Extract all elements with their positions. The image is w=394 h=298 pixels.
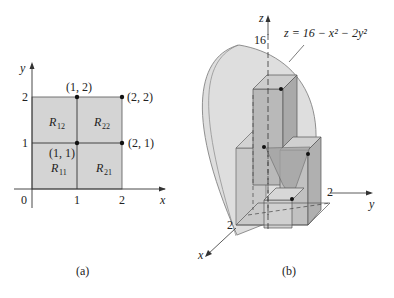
x-axis-arrow-icon xyxy=(159,187,166,192)
y-axis-b-arrow-icon xyxy=(366,191,373,196)
point-label-1-2: (1, 2) xyxy=(66,80,92,94)
z-tick-16: 16 xyxy=(254,33,266,47)
point-label-1-1: (1, 1) xyxy=(49,146,75,160)
y-tick-2: 2 xyxy=(22,90,28,104)
point-1-2 xyxy=(75,95,79,99)
x-tick-2: 2 xyxy=(119,193,125,207)
svg-text:22: 22 xyxy=(102,122,110,131)
origin-label: 0 xyxy=(21,193,27,207)
svg-text:R: R xyxy=(95,161,104,175)
caption-b: (b) xyxy=(282,264,296,278)
point-label-2-1: (2, 1) xyxy=(128,136,154,150)
surface-equation: z = 16 − x² − 2y² xyxy=(283,26,367,40)
y-tick-2: 2 xyxy=(327,185,333,199)
figure-canvas: y x 0 1 2 1 2 (1, 2) (2, 2) (1, 1) (2, 1… xyxy=(0,0,394,298)
svg-text:11: 11 xyxy=(59,168,67,177)
x-axis-b xyxy=(207,228,236,255)
y-tick-1: 1 xyxy=(22,136,28,150)
y-axis-b-label: y xyxy=(368,197,375,211)
point-2-2 xyxy=(120,95,124,99)
svg-text:R: R xyxy=(50,161,59,175)
figure-a: y x 0 1 2 1 2 (1, 2) (2, 2) (1, 1) (2, 1… xyxy=(14,61,166,278)
y-axis-label: y xyxy=(19,61,26,75)
x-axis-label: x xyxy=(159,193,166,207)
x-tick-1: 1 xyxy=(74,193,80,207)
figure-b: z 16 z = 16 − x² − 2y² 2 y 2 x (b) xyxy=(197,11,375,278)
x-axis-b-label: x xyxy=(197,248,204,262)
z-axis-label: z xyxy=(258,11,264,25)
point-1-1 xyxy=(75,141,79,145)
point-label-2-2: (2, 2) xyxy=(127,90,153,104)
x-tick-2: 2 xyxy=(227,218,233,232)
svg-text:R: R xyxy=(93,115,102,129)
y-axis-arrow-icon xyxy=(30,62,35,69)
caption-a: (a) xyxy=(76,264,89,278)
svg-text:12: 12 xyxy=(57,122,65,131)
svg-text:21: 21 xyxy=(104,168,112,177)
point-2-1 xyxy=(120,141,124,145)
svg-text:R: R xyxy=(48,115,57,129)
